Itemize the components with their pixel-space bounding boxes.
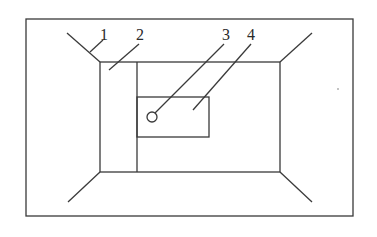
stray-dot (337, 88, 339, 90)
edge-bottom-left (68, 172, 100, 202)
label-1: 1 (100, 26, 108, 43)
part-4-box (137, 97, 209, 137)
leader-4 (193, 44, 251, 110)
edge-top-right (280, 33, 312, 62)
leader-2 (109, 44, 139, 70)
leader-3 (155, 44, 224, 113)
label-3: 3 (222, 26, 230, 43)
outer-frame (26, 19, 353, 216)
label-4: 4 (247, 26, 255, 43)
label-2: 2 (136, 26, 144, 43)
edge-bottom-right (280, 172, 312, 202)
part-3-circle (147, 112, 157, 122)
room-diagram: 1 2 3 4 (0, 0, 377, 237)
